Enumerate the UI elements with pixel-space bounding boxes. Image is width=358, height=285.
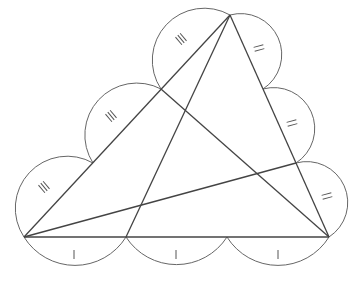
arc-ab-2	[85, 83, 161, 163]
tick-marks-double	[254, 45, 333, 199]
cevian-1	[161, 89, 329, 237]
arc-ac-2	[263, 88, 315, 163]
arc-ac-3	[296, 162, 348, 237]
cevian-3	[24, 163, 296, 237]
arc-bc-1	[24, 237, 126, 265]
arc-ab-1	[152, 8, 230, 89]
tick-marks-triple	[38, 33, 186, 193]
side-ab	[24, 15, 230, 237]
arcs	[15, 8, 347, 265]
triangle-diagram	[0, 0, 358, 285]
triangle-sides	[24, 15, 329, 237]
cevian-2	[126, 15, 230, 237]
side-ac	[230, 15, 329, 237]
cevians	[24, 15, 329, 237]
arc-ab-3	[15, 156, 93, 237]
